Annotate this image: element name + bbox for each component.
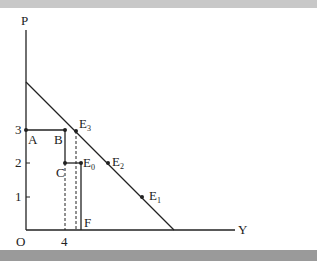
- point-e1-dot: [140, 195, 144, 199]
- point-b-dot: [63, 128, 67, 132]
- bottom-border: [0, 250, 317, 261]
- point-e2-dot: [106, 161, 110, 165]
- label-c: C: [56, 165, 65, 180]
- y-tick-3: 3: [15, 122, 22, 137]
- label-e1: E1: [149, 188, 161, 205]
- label-f: F: [84, 215, 91, 230]
- label-a: A: [28, 132, 38, 147]
- demand-line: [26, 82, 174, 230]
- x-axis-label: Y: [238, 222, 248, 237]
- point-e3-dot: [74, 129, 78, 133]
- label-e3: E3: [79, 116, 91, 133]
- origin-label: O: [16, 234, 25, 249]
- price-output-diagram: P Y O 1 2 3 4 A B C F E3 E0 E2 E1: [0, 0, 317, 261]
- y-tick-1: 1: [15, 189, 22, 204]
- label-e0: E0: [83, 155, 95, 172]
- x-tick-4: 4: [61, 234, 68, 249]
- y-tick-2: 2: [15, 155, 22, 170]
- label-b: B: [54, 132, 63, 147]
- y-axis-label: P: [21, 13, 28, 28]
- label-e2: E2: [112, 154, 124, 171]
